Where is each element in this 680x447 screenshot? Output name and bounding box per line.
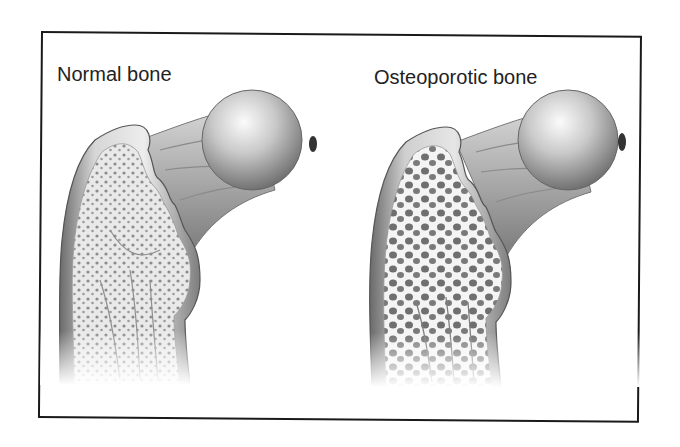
osteoporotic-bone-illustration bbox=[356, 82, 656, 387]
normal-bone-illustration bbox=[40, 80, 340, 385]
